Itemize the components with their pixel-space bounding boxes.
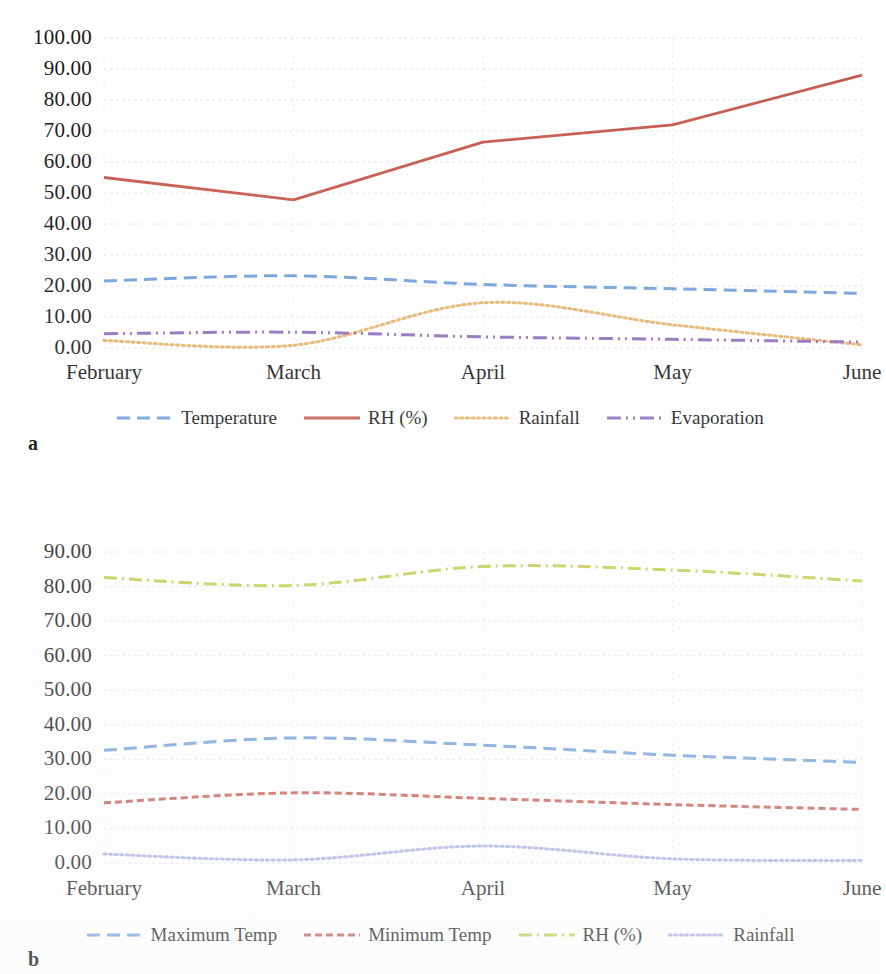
x-tick-label: May: [588, 362, 758, 383]
x-tick-label: June: [777, 878, 886, 899]
chart-b-svg: [0, 500, 880, 875]
chart-b-legend: Maximum TempMinimum TempRH (%)Rainfall: [0, 925, 880, 944]
y-tick-label: 50.00: [0, 182, 92, 203]
x-tick-label: April: [398, 878, 568, 899]
chart-a-svg: [0, 0, 880, 360]
legend-label: RH (%): [583, 925, 643, 944]
y-tick-label: 30.00: [0, 244, 92, 265]
y-tick-label: 20.00: [0, 275, 92, 296]
x-tick-label: March: [209, 362, 379, 383]
y-tick-label: 0.00: [0, 337, 92, 358]
legend-item[interactable]: Evaporation: [606, 408, 764, 427]
chart-a-plot-area: [0, 0, 880, 360]
y-tick-label: 40.00: [0, 714, 92, 735]
legend-item[interactable]: Minimum Temp: [303, 925, 491, 944]
y-tick-label: 90.00: [0, 58, 92, 79]
legend-item[interactable]: Rainfall: [668, 925, 794, 944]
y-tick-label: 90.00: [0, 541, 92, 562]
y-tick-label: 10.00: [0, 817, 92, 838]
legend-swatch-icon: [518, 929, 576, 941]
y-tick-label: 60.00: [0, 645, 92, 666]
legend-swatch-icon: [116, 412, 174, 424]
x-tick-label: March: [209, 878, 379, 899]
legend-label: Minimum Temp: [368, 925, 491, 944]
chart-b-plot-area: [0, 500, 880, 875]
legend-label: Maximum Temp: [151, 925, 278, 944]
x-tick-label: February: [19, 362, 189, 383]
x-tick-label: June: [777, 362, 886, 383]
legend-item[interactable]: RH (%): [303, 408, 428, 427]
figure-b: 0.0010.0020.0030.0040.0050.0060.0070.008…: [0, 500, 880, 974]
x-tick-label: May: [588, 878, 758, 899]
y-tick-label: 70.00: [0, 610, 92, 631]
y-tick-label: 70.00: [0, 120, 92, 141]
legend-label: Rainfall: [733, 925, 794, 944]
y-tick-label: 80.00: [0, 89, 92, 110]
y-tick-label: 80.00: [0, 576, 92, 597]
legend-label: Temperature: [181, 408, 277, 427]
y-tick-label: 40.00: [0, 213, 92, 234]
legend-label: Evaporation: [671, 408, 764, 427]
legend-item[interactable]: Temperature: [116, 408, 277, 427]
legend-swatch-icon: [454, 412, 512, 424]
legend-swatch-icon: [668, 929, 726, 941]
legend-item[interactable]: RH (%): [518, 925, 643, 944]
y-tick-label: 20.00: [0, 783, 92, 804]
y-tick-label: 100.00: [0, 27, 92, 48]
legend-item[interactable]: Rainfall: [454, 408, 580, 427]
legend-item[interactable]: Maximum Temp: [86, 925, 278, 944]
legend-swatch-icon: [303, 929, 361, 941]
legend-label: RH (%): [368, 408, 428, 427]
y-tick-label: 50.00: [0, 679, 92, 700]
x-tick-label: February: [19, 878, 189, 899]
panel-label-a: a: [28, 432, 38, 455]
chart-a-legend: TemperatureRH (%)RainfallEvaporation: [0, 408, 880, 427]
figure-a: 0.0010.0020.0030.0040.0050.0060.0070.008…: [0, 0, 880, 470]
x-tick-label: April: [398, 362, 568, 383]
legend-swatch-icon: [86, 929, 144, 941]
y-tick-label: 60.00: [0, 151, 92, 172]
legend-swatch-icon: [303, 412, 361, 424]
y-tick-label: 30.00: [0, 748, 92, 769]
y-tick-label: 10.00: [0, 306, 92, 327]
y-tick-label: 0.00: [0, 852, 92, 873]
panel-label-b: b: [28, 948, 39, 971]
legend-label: Rainfall: [519, 408, 580, 427]
legend-swatch-icon: [606, 412, 664, 424]
